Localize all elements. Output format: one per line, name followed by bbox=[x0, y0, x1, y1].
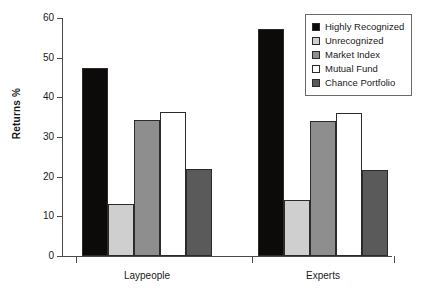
y-tick-label: 0 bbox=[48, 251, 54, 261]
legend-swatch-icon bbox=[312, 51, 320, 59]
legend: Highly RecognizedUnrecognizedMarket Inde… bbox=[305, 14, 412, 96]
legend-swatch-icon bbox=[312, 37, 320, 45]
y-tick-mark bbox=[57, 97, 62, 98]
bar bbox=[134, 120, 160, 256]
x-group-tick bbox=[252, 256, 253, 263]
y-tick-label: 60 bbox=[43, 13, 54, 23]
x-category-label: Experts bbox=[306, 270, 340, 281]
bar bbox=[258, 29, 284, 256]
bar bbox=[186, 169, 212, 256]
bar bbox=[362, 170, 388, 256]
bar bbox=[108, 204, 134, 256]
y-tick-mark bbox=[57, 216, 62, 217]
bar bbox=[336, 113, 362, 256]
y-tick-label: 10 bbox=[43, 211, 54, 221]
y-tick-label: 30 bbox=[43, 132, 54, 142]
legend-item: Unrecognized bbox=[312, 34, 404, 48]
legend-item: Highly Recognized bbox=[312, 20, 404, 34]
x-group-tick bbox=[76, 256, 77, 263]
bar bbox=[160, 112, 186, 256]
x-axis-line bbox=[62, 256, 392, 257]
legend-item: Chance Portfolio bbox=[312, 76, 404, 90]
legend-label: Unrecognized bbox=[325, 36, 384, 46]
legend-item: Mutual Fund bbox=[312, 62, 404, 76]
y-tick-label: 50 bbox=[43, 53, 54, 63]
legend-item: Market Index bbox=[312, 48, 404, 62]
legend-swatch-icon bbox=[312, 79, 320, 87]
y-tick-mark bbox=[57, 137, 62, 138]
y-tick-mark bbox=[57, 18, 62, 19]
legend-label: Highly Recognized bbox=[325, 22, 404, 32]
y-tick-label: 40 bbox=[43, 92, 54, 102]
y-tick-mark bbox=[57, 177, 62, 178]
bar bbox=[284, 200, 310, 256]
y-axis-label: Returns % bbox=[11, 74, 22, 154]
y-tick-mark bbox=[57, 256, 62, 257]
bar bbox=[82, 68, 108, 256]
legend-swatch-icon bbox=[312, 65, 320, 73]
legend-label: Chance Portfolio bbox=[325, 78, 395, 88]
bar-chart: Returns % 0102030405060 LaypeopleExperts… bbox=[0, 0, 442, 294]
y-axis-line bbox=[62, 18, 63, 256]
y-tick-mark bbox=[57, 58, 62, 59]
legend-label: Mutual Fund bbox=[325, 64, 378, 74]
bar bbox=[310, 121, 336, 256]
x-group-tick-end bbox=[394, 256, 395, 263]
x-category-label: Laypeople bbox=[124, 270, 170, 281]
legend-label: Market Index bbox=[325, 50, 380, 60]
y-tick-label: 20 bbox=[43, 172, 54, 182]
legend-swatch-icon bbox=[312, 23, 320, 31]
